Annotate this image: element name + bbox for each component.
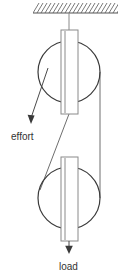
top-pulley-block	[61, 30, 78, 114]
load-label: load	[59, 261, 78, 272]
load-arrow	[65, 241, 73, 254]
bottom-pulley-block	[61, 157, 78, 241]
pulley-diagram: effort load	[0, 0, 139, 277]
ceiling-hatching	[33, 3, 127, 13]
effort-label: effort	[11, 131, 34, 142]
pulley-system-svg: effort load	[0, 0, 139, 277]
